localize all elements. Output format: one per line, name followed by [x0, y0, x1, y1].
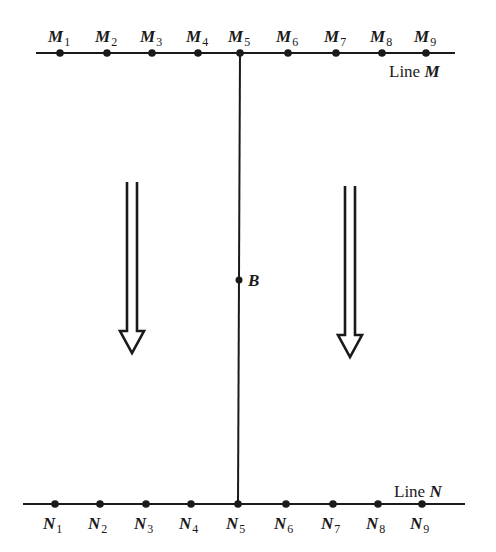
point-letter: N	[409, 514, 423, 533]
point-letter: M	[323, 27, 340, 46]
point-subscript: 6	[292, 35, 298, 49]
point-m1-label: M1	[47, 27, 70, 49]
point-m4-dot	[194, 49, 202, 57]
point-n2-dot	[96, 500, 104, 508]
point-m1-dot	[56, 49, 64, 57]
point-n8-label: N8	[365, 514, 385, 536]
line-m-label-var: M	[423, 62, 440, 81]
point-letter: N	[178, 514, 192, 533]
point-letter: N	[273, 514, 287, 533]
point-n7-dot	[329, 500, 337, 508]
point-m7-dot	[332, 49, 340, 57]
point-m6-dot	[284, 49, 292, 57]
point-n7-label: N7	[320, 514, 340, 536]
point-n3-dot	[142, 500, 150, 508]
point-subscript: 1	[56, 522, 62, 536]
diagram-canvas: M1M2M3M4M5M6M7M8M9 N1N2N3N4N5N6N7N8N9 B …	[0, 0, 496, 552]
point-n5-dot	[234, 500, 242, 508]
point-letter: N	[320, 514, 334, 533]
line-n-label-var: N	[428, 482, 442, 501]
point-n1-label: N1	[42, 514, 62, 536]
point-letter: M	[275, 27, 292, 46]
point-letter: N	[42, 514, 56, 533]
point-subscript: 4	[192, 522, 198, 536]
point-letter: N	[87, 514, 101, 533]
direction-arrows	[120, 182, 362, 357]
point-n4-dot	[187, 500, 195, 508]
right-arrow-icon	[338, 186, 362, 357]
point-subscript: 3	[156, 35, 162, 49]
line-n-label-prefix: Line	[394, 482, 429, 501]
point-letter: M	[185, 27, 202, 46]
point-subscript: 3	[147, 522, 153, 536]
point-subscript: 9	[430, 35, 436, 49]
point-subscript: 2	[101, 522, 107, 536]
point-subscript: 6	[287, 522, 293, 536]
point-m3-label: M3	[139, 27, 162, 49]
point-letter: M	[413, 27, 430, 46]
point-letter: M	[94, 27, 111, 46]
point-n8-dot	[374, 500, 382, 508]
point-m5-dot	[236, 49, 244, 57]
point-subscript: 8	[386, 35, 392, 49]
line-n-label: Line N	[394, 482, 442, 501]
point-m3-dot	[148, 49, 156, 57]
line-m-label: Line M	[389, 62, 440, 81]
point-m8-dot	[378, 49, 386, 57]
point-subscript: 5	[239, 522, 245, 536]
point-b-label: B	[247, 271, 259, 290]
point-n5-label: N5	[225, 514, 245, 536]
point-subscript: 4	[202, 35, 208, 49]
point-letter: M	[47, 27, 64, 46]
point-m2-dot	[103, 49, 111, 57]
point-subscript: 7	[334, 522, 340, 536]
point-letter: N	[133, 514, 147, 533]
point-n2-label: N2	[87, 514, 107, 536]
point-letter: M	[139, 27, 156, 46]
point-subscript: 8	[379, 522, 385, 536]
point-n6-label: N6	[273, 514, 293, 536]
point-subscript: 5	[244, 35, 250, 49]
line-n-points: N1N2N3N4N5N6N7N8N9	[42, 500, 429, 536]
point-m6-label: M6	[275, 27, 298, 49]
point-letter: N	[225, 514, 239, 533]
diagram-svg: M1M2M3M4M5M6M7M8M9 N1N2N3N4N5N6N7N8N9 B …	[0, 0, 496, 552]
point-m9-dot	[422, 49, 430, 57]
point-m8-label: M8	[369, 27, 392, 49]
point-letter: M	[227, 27, 244, 46]
point-n3-label: N3	[133, 514, 153, 536]
point-subscript: 2	[111, 35, 117, 49]
point-n9-dot	[418, 500, 426, 508]
point-letter: M	[369, 27, 386, 46]
point-n9-label: N9	[409, 514, 429, 536]
point-n6-dot	[282, 500, 290, 508]
point-m4-label: M4	[185, 27, 208, 49]
point-m9-label: M9	[413, 27, 436, 49]
point-subscript: 1	[64, 35, 70, 49]
point-m2-label: M2	[94, 27, 117, 49]
line-m-label-prefix: Line	[389, 62, 424, 81]
point-b-dot	[236, 277, 243, 284]
point-n1-dot	[51, 500, 59, 508]
point-m5-label: M5	[227, 27, 250, 49]
point-letter: N	[365, 514, 379, 533]
point-m7-label: M7	[323, 27, 346, 49]
left-arrow-icon	[120, 182, 144, 353]
point-subscript: 9	[423, 522, 429, 536]
point-n4-label: N4	[178, 514, 198, 536]
point-subscript: 7	[340, 35, 346, 49]
